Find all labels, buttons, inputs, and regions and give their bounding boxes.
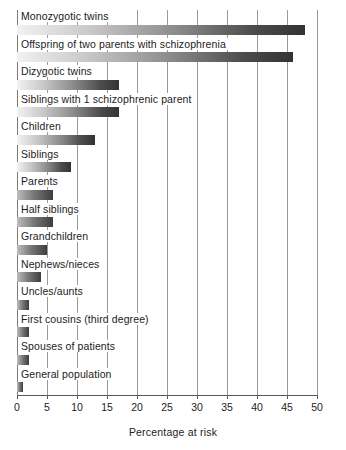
bar-row: Half siblings <box>17 203 317 231</box>
bar-category-label: General population <box>20 368 115 380</box>
tick-mark-5 <box>47 395 48 399</box>
bar-category-label: Spouses of patients <box>20 340 118 352</box>
bar <box>17 272 41 282</box>
tick-mark-20 <box>137 395 138 399</box>
bar <box>17 135 95 145</box>
bar-rows: Monozygotic twinsOffspring of two parent… <box>17 10 317 395</box>
bar-row: Uncles/aunts <box>17 285 317 313</box>
bar-category-label: Siblings <box>20 148 62 160</box>
bar <box>17 107 119 117</box>
x-tick-label: 45 <box>281 401 293 413</box>
x-tick-label: 15 <box>101 401 113 413</box>
tick-mark-50 <box>317 395 318 399</box>
x-tick-label: 35 <box>221 401 233 413</box>
tick-mark-0 <box>17 395 18 399</box>
plot-area: Monozygotic twinsOffspring of two parent… <box>17 10 317 395</box>
bar-row: Spouses of patients <box>17 340 317 368</box>
bar-category-label: Offspring of two parents with schizophre… <box>20 38 229 50</box>
bar-category-label: Siblings with 1 schizophrenic parent <box>20 93 195 105</box>
x-tick-label: 20 <box>131 401 143 413</box>
bar <box>17 382 23 392</box>
bar-category-label: First cousins (third degree) <box>20 313 152 325</box>
bar-row: Children <box>17 120 317 148</box>
bar-row: Nephews/nieces <box>17 258 317 286</box>
x-tick-label: 10 <box>71 401 83 413</box>
tick-mark-10 <box>77 395 78 399</box>
bar-category-label: Monozygotic twins <box>20 10 111 22</box>
x-tick-label: 50 <box>311 401 323 413</box>
tick-mark-15 <box>107 395 108 399</box>
tick-mark-35 <box>227 395 228 399</box>
bar-category-label: Children <box>20 120 64 132</box>
gridline-50 <box>317 10 318 395</box>
bar <box>17 217 53 227</box>
bar-category-label: Parents <box>20 175 61 187</box>
bar <box>17 245 47 255</box>
tick-mark-40 <box>257 395 258 399</box>
bar-row: Siblings <box>17 148 317 176</box>
tick-mark-45 <box>287 395 288 399</box>
bar <box>17 80 119 90</box>
tick-mark-25 <box>167 395 168 399</box>
bar-row: Monozygotic twins <box>17 10 317 38</box>
bar-row: Parents <box>17 175 317 203</box>
tick-mark-30 <box>197 395 198 399</box>
bar-row: First cousins (third degree) <box>17 313 317 341</box>
x-tick-label: 5 <box>44 401 50 413</box>
bar <box>17 162 71 172</box>
bar-category-label: Grandchildren <box>20 230 91 242</box>
bar <box>17 300 29 310</box>
bar-row: Grandchildren <box>17 230 317 258</box>
x-tick-label: 40 <box>251 401 263 413</box>
bar-category-label: Dizygotic twins <box>20 65 95 77</box>
x-tick-label: 25 <box>161 401 173 413</box>
bar <box>17 25 305 35</box>
bar-row: Siblings with 1 schizophrenic parent <box>17 93 317 121</box>
x-tick-label: 0 <box>14 401 20 413</box>
bar-row: Dizygotic twins <box>17 65 317 93</box>
bar-category-label: Half siblings <box>20 203 82 215</box>
bar-category-label: Nephews/nieces <box>20 258 102 270</box>
bar <box>17 355 29 365</box>
x-axis-title: Percentage at risk <box>0 426 346 438</box>
x-tick-label: 30 <box>191 401 203 413</box>
bar <box>17 52 293 62</box>
bar <box>17 327 29 337</box>
bar-row: Offspring of two parents with schizophre… <box>17 38 317 66</box>
horizontal-bar-chart: Monozygotic twinsOffspring of two parent… <box>0 0 346 450</box>
bar-row: General population <box>17 368 317 396</box>
bar-category-label: Uncles/aunts <box>20 285 86 297</box>
bar <box>17 190 53 200</box>
